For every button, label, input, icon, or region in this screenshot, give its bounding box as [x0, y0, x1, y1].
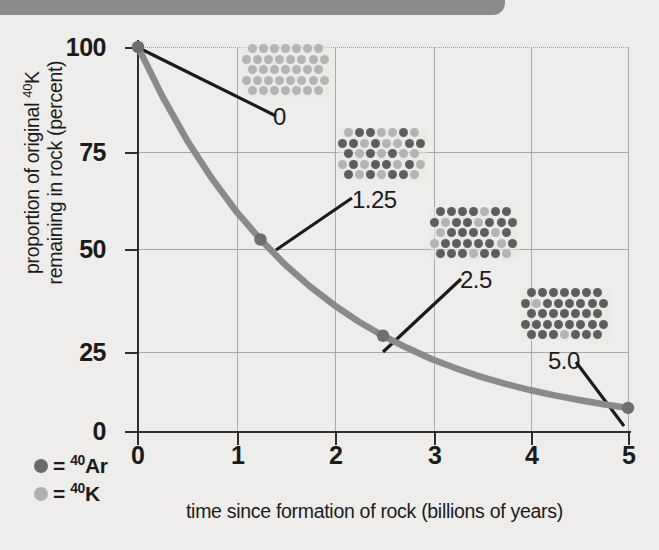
legend-item-ar: = 40Ar: [34, 452, 107, 480]
legend-element-k: K: [85, 482, 100, 505]
legend: = 40Ar = 40K: [34, 452, 107, 508]
legend-equals-ar: =: [53, 454, 65, 478]
leader-line-0: [141, 49, 276, 116]
decay-curve: [138, 47, 628, 408]
legend-sup-k: 40: [70, 480, 85, 496]
legend-sup-ar: 40: [70, 452, 85, 468]
legend-label-ar: 40Ar: [65, 454, 108, 478]
legend-element-ar: Ar: [85, 454, 108, 477]
legend-equals-k: =: [53, 482, 65, 506]
data-point-2.5: [377, 330, 389, 342]
legend-label-k: 40K: [65, 482, 100, 506]
data-point-5.0: [622, 402, 634, 414]
dark-circle-icon: [34, 459, 48, 473]
chart-page: 100 75 50 25 0 0 1 2 3 4 5 proportion of…: [0, 0, 659, 550]
leader-line-50: [576, 362, 624, 426]
leader-line-125: [276, 198, 352, 250]
light-circle-icon: [34, 487, 48, 501]
data-point-1.25: [254, 233, 266, 245]
data-point-0: [132, 41, 144, 53]
legend-item-k: = 40K: [34, 480, 107, 508]
curve-markers: [132, 41, 634, 414]
